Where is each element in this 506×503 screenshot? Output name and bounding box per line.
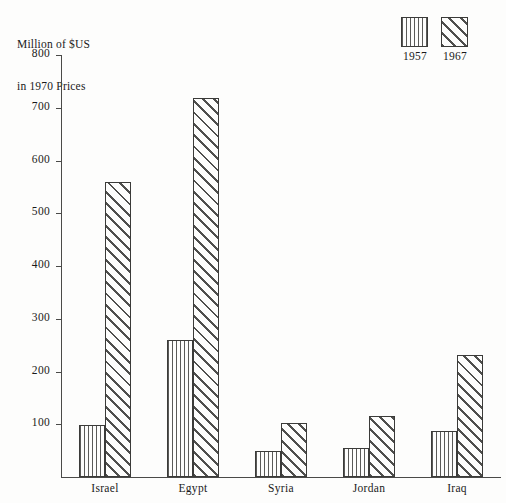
plot-area: 100200300400500600700800 IsraelEgyptSyri… <box>61 40 501 478</box>
bar-israel-1967 <box>105 182 131 477</box>
bar-egypt-1967 <box>193 98 219 477</box>
bar-syria-1967 <box>281 423 307 477</box>
category-label-iraq: Iraq <box>413 482 501 494</box>
bar-iraq-1957 <box>431 431 457 477</box>
y-tick-700 <box>56 108 62 109</box>
category-label-jordan: Jordan <box>325 482 413 494</box>
y-tick-label-500: 500 <box>16 205 50 217</box>
category-label-syria: Syria <box>237 482 325 494</box>
bar-egypt-1957 <box>167 340 193 477</box>
y-tick-100 <box>56 424 62 425</box>
category-label-israel: Israel <box>61 482 149 494</box>
y-tick-label-300: 300 <box>16 311 50 323</box>
y-tick-400 <box>56 266 62 267</box>
bar-jordan-1957 <box>343 448 369 477</box>
y-tick-label-200: 200 <box>16 364 50 376</box>
y-tick-label-400: 400 <box>16 258 50 270</box>
y-tick-label-800: 800 <box>16 47 50 59</box>
y-tick-label-600: 600 <box>16 153 50 165</box>
y-tick-800 <box>56 55 62 56</box>
y-tick-label-100: 100 <box>16 416 50 428</box>
y-tick-500 <box>56 213 62 214</box>
bar-chart: Million of $US in 1970 Prices 1957 1967 … <box>0 0 506 503</box>
y-tick-600 <box>56 161 62 162</box>
x-axis-line <box>61 477 501 478</box>
y-tick-300 <box>56 319 62 320</box>
y-tick-label-700: 700 <box>16 100 50 112</box>
bar-israel-1957 <box>79 425 105 477</box>
bar-jordan-1967 <box>369 416 395 477</box>
bar-syria-1957 <box>255 451 281 477</box>
y-tick-200 <box>56 372 62 373</box>
bar-iraq-1967 <box>457 355 483 477</box>
category-label-egypt: Egypt <box>149 482 237 494</box>
